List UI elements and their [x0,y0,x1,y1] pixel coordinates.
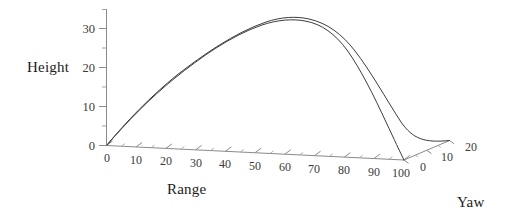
range-major-ticks [107,141,410,160]
yaw-tick-label-0: 0 [420,160,426,174]
range-axis-title: Range [167,181,206,198]
height-tick-label-30: 30 [83,22,96,36]
height-axis: 30 20 10 0 [83,9,107,153]
trajectory-curves [107,17,450,160]
range-tick-label-60: 60 [279,160,291,174]
height-tick-label-20: 20 [83,61,96,75]
height-axis-title: Height [27,59,69,76]
range-tick-label-100: 100 [392,166,410,180]
yaw-tick-label-20: 20 [465,140,477,154]
height-tick-label-10: 10 [83,100,96,114]
range-tick-label-0: 0 [104,151,110,165]
range-tick-label-10: 10 [130,153,142,167]
trajectory-zero-yaw-path [107,20,404,160]
range-axis: 0 10 20 30 40 50 60 70 80 90 100 [104,141,410,180]
trajectory-plot: 30 20 10 0 [0,0,515,224]
range-tick-label-80: 80 [338,163,350,177]
height-tick-label-0: 0 [89,139,95,153]
range-tick-label-40: 40 [219,157,231,171]
yaw-axis: 0 10 20 [404,140,477,174]
yaw-tick-label-10: 10 [441,150,453,164]
range-tick-label-50: 50 [249,159,261,173]
range-tick-label-20: 20 [160,154,172,168]
range-tick-label-30: 30 [190,156,202,170]
range-tick-label-90: 90 [368,165,380,179]
trajectory-yaw-twenty-path [107,17,450,145]
range-tick-label-70: 70 [308,162,320,176]
yaw-axis-title: Yaw [457,194,484,211]
